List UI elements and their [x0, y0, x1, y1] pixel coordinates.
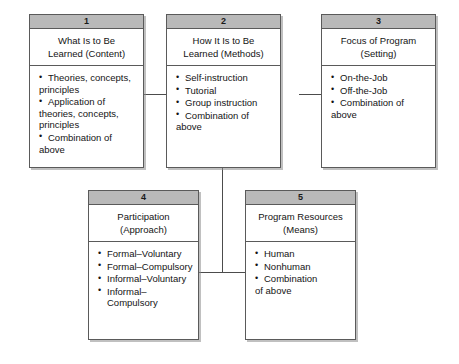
- box-5-number: 5: [246, 191, 355, 205]
- box-1-body: Theories, concepts, principles Applicati…: [30, 66, 143, 160]
- connector-box4-box5: [199, 272, 245, 273]
- box-3-number: 3: [322, 15, 435, 29]
- box-4-list: Formal–Voluntary Formal–Compulsory Infor…: [98, 248, 193, 309]
- box-2-list: Self-instruction Tutorial Group instruct…: [176, 72, 275, 133]
- box-2-title: How It Is to Be Learned (Methods): [167, 29, 280, 66]
- box-2-number: 2: [167, 15, 280, 29]
- list-item: Self-instruction: [176, 72, 275, 84]
- box-2-body: Self-instruction Tutorial Group instruct…: [167, 66, 280, 138]
- list-item: Tutorial: [176, 85, 275, 97]
- box-3-title: Focus of Program (Setting): [322, 29, 435, 66]
- list-item: Combination of above: [39, 132, 138, 155]
- box-1-number: 1: [30, 15, 143, 29]
- box-1-title: What Is to Be Learned (Content): [30, 29, 143, 66]
- list-item: Off-the-Job: [331, 85, 430, 97]
- list-item: Application of theories, concepts, princ…: [39, 96, 138, 131]
- diagram-box-3: 3 Focus of Program (Setting) On-the-Job …: [321, 14, 436, 168]
- box-3-body: On-the-Job Off-the-Job Combination of ab…: [322, 66, 435, 125]
- list-item: Nonhuman: [255, 261, 350, 273]
- list-item: Human: [255, 248, 350, 260]
- list-item: Formal–Voluntary: [98, 248, 193, 260]
- connector-box2-box3: [299, 94, 321, 95]
- box-3-list: On-the-Job Off-the-Job Combination of ab…: [331, 72, 430, 120]
- list-item: Informal–Compulsory: [98, 286, 193, 309]
- list-item: Combination of above: [176, 110, 275, 133]
- list-item: Informal–Voluntary: [98, 273, 193, 285]
- list-item: Group instruction: [176, 97, 275, 109]
- box-4-body: Formal–Voluntary Formal–Compulsory Infor…: [89, 242, 198, 314]
- box-4-number: 4: [89, 191, 198, 205]
- list-item: Theories, concepts, principles: [39, 72, 138, 95]
- diagram-box-1: 1 What Is to Be Learned (Content) Theori…: [29, 14, 144, 168]
- list-item: Formal–Compulsory: [98, 261, 193, 273]
- box-5-body: Human Nonhuman Combination of above: [246, 242, 355, 301]
- diagram-canvas: 1 What Is to Be Learned (Content) Theori…: [0, 0, 459, 364]
- diagram-box-5: 5 Program Resources (Means) Human Nonhum…: [245, 190, 356, 340]
- list-item: Combination of above: [255, 273, 350, 296]
- connector-box2-down: [222, 168, 223, 272]
- box-1-list: Theories, concepts, principles Applicati…: [39, 72, 138, 155]
- diagram-box-2: 2 How It Is to Be Learned (Methods) Self…: [166, 14, 281, 168]
- box-5-title: Program Resources (Means): [246, 205, 355, 242]
- list-item: On-the-Job: [331, 72, 430, 84]
- box-4-title: Participation (Approach): [89, 205, 198, 242]
- connector-box1-box2: [144, 94, 166, 95]
- list-item: Combination of above: [331, 97, 430, 120]
- diagram-box-4: 4 Participation (Approach) Formal–Volunt…: [88, 190, 199, 340]
- box-5-list: Human Nonhuman Combination of above: [255, 248, 350, 296]
